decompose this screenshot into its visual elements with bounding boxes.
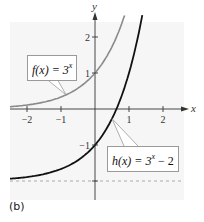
f-label-func: f(x) = 3 [32,63,69,77]
f-function-label: f(x) = 3x [27,55,77,81]
y-axis-arrow-icon [93,12,98,20]
f-label-exponent: x [69,61,73,70]
plot-background [10,22,184,200]
x-tick-label: −1 [56,114,67,125]
y-tick-label: −1 [79,140,90,151]
x-tick-label: 2 [161,114,166,125]
y-tick-label: 1 [85,68,90,79]
h-function-label: h(x) = 3x − 2 [107,146,179,172]
h-label-func: h(x) = 3 [112,154,151,168]
y-tick-label: 2 [85,32,90,43]
x-axis-arrow-icon [181,107,189,112]
x-tick-label: 1 [127,114,132,125]
graph-canvas: xy −2−112−112 [0,0,204,222]
h-label-tail: − 2 [155,154,174,168]
y-axis-label: y [91,0,97,12]
panel-label: (b) [9,200,25,213]
x-axis-label: x [190,102,196,114]
x-tick-label: −2 [22,114,33,125]
